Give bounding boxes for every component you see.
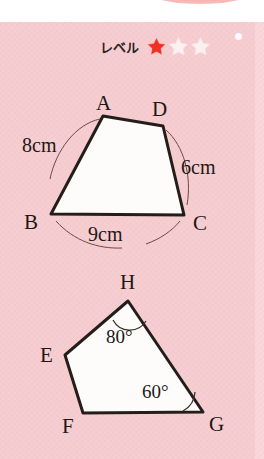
vertex-label-f: F bbox=[62, 416, 74, 437]
angle-label-h: 80° bbox=[106, 327, 133, 346]
worksheet-page: レベル A D C B 8cm 6cm 9cm H G F E 80° 60° bbox=[0, 0, 264, 459]
measurement-bc: 9cm bbox=[88, 224, 122, 244]
vertex-label-d: D bbox=[152, 99, 167, 120]
vertex-label-a: A bbox=[96, 93, 111, 114]
measurement-ab: 8cm bbox=[22, 135, 56, 155]
measurement-dc: 6cm bbox=[181, 157, 215, 177]
vertex-label-g: G bbox=[209, 414, 224, 435]
vertex-label-h: H bbox=[120, 272, 135, 293]
vertex-label-b: B bbox=[24, 212, 38, 233]
vertex-label-c: C bbox=[193, 213, 207, 234]
arc-bc2 bbox=[146, 221, 180, 244]
quadrilateral-efgh-shape bbox=[65, 301, 203, 413]
figure-abcd-svg bbox=[0, 0, 264, 459]
vertex-label-e: E bbox=[40, 345, 53, 366]
quadrilateral-abcd-shape bbox=[51, 116, 184, 215]
angle-label-g: 60° bbox=[142, 382, 169, 401]
